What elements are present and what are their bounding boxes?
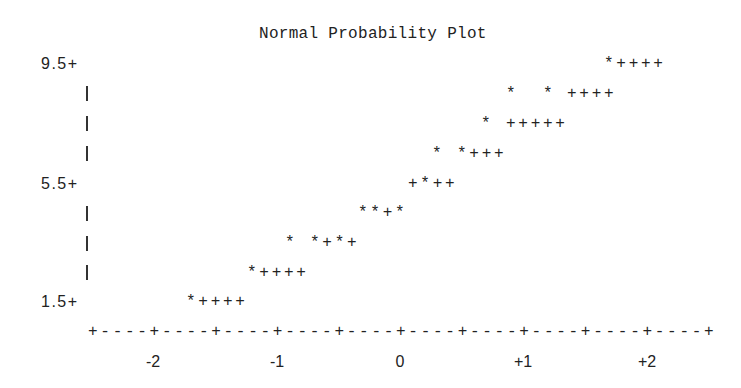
y-axis-bar [86, 265, 88, 280]
y-axis-bar [86, 86, 88, 101]
plot-row-2-5: *++++ [247, 263, 309, 283]
plot-row-9-5: *++++ [604, 54, 666, 74]
x-tick-label-plus-2: +2 [638, 352, 656, 372]
plot-row-6-5-line: *+++ [457, 144, 506, 164]
x-axis-line: +----+----+----+----+----+----+----+----… [88, 322, 716, 342]
y-axis-bar [86, 206, 88, 221]
chart-title: Normal Probability Plot [259, 24, 487, 44]
y-tick-label-9-5: 9.5+ [41, 54, 79, 74]
x-tick-label-minus-2: -2 [146, 352, 160, 372]
plot-row-7-5-point: * [481, 114, 493, 134]
plot-row-8-5-point-a: * [506, 84, 518, 104]
y-axis-bar [86, 116, 88, 131]
x-tick-label-plus-1: +1 [514, 352, 532, 372]
plot-row-8-5-point-b: * [543, 84, 555, 104]
y-tick-label-5-5: 5.5+ [41, 174, 79, 194]
plot-row-5-5: +*++ [408, 174, 457, 194]
x-tick-label-0: 0 [396, 352, 405, 372]
y-axis-bar [86, 146, 88, 161]
plot-row-3-5-point: * [285, 233, 297, 253]
plot-row-7-5-line: +++++ [506, 114, 568, 134]
y-tick-label-1-5: 1.5+ [41, 292, 79, 312]
y-axis-bar [86, 236, 88, 251]
plot-row-4-5: **+* [358, 203, 407, 223]
plot-row-8-5-line: ++++ [567, 84, 616, 104]
x-tick-label-minus-1: -1 [270, 352, 284, 372]
plot-row-3-5-line: *+*+ [310, 233, 359, 253]
plot-row-1-5: *++++ [186, 292, 248, 312]
plot-row-6-5-point: * [432, 144, 444, 164]
